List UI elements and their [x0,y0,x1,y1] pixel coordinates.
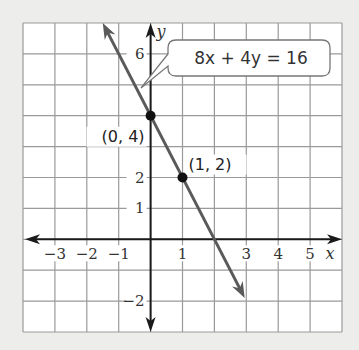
x-axis-label: x [325,244,334,263]
coordinate-plane: −3−2−11345621−2xy (0, 4)(1, 2) 8x + 4y =… [0,0,359,350]
x-tick-label: 3 [242,245,252,263]
callout-text: 8x + 4y = 16 [194,48,308,68]
data-point [146,111,156,121]
y-tick-label: 6 [135,45,145,63]
x-tick-label: −1 [108,245,130,263]
x-tick-label: 4 [273,245,283,263]
x-tick-label: −3 [44,245,66,263]
y-tick-label: 1 [135,199,145,217]
x-tick-label: −2 [76,245,98,263]
point-label: (1, 2) [189,155,232,174]
x-tick-label: 1 [178,245,188,263]
data-point [178,173,188,183]
y-tick-label: −2 [122,292,144,310]
y-axis-label: y [156,22,167,41]
x-tick-label: 5 [305,245,315,263]
point-label: (0, 4) [102,127,145,146]
y-tick-label: 2 [135,169,145,187]
